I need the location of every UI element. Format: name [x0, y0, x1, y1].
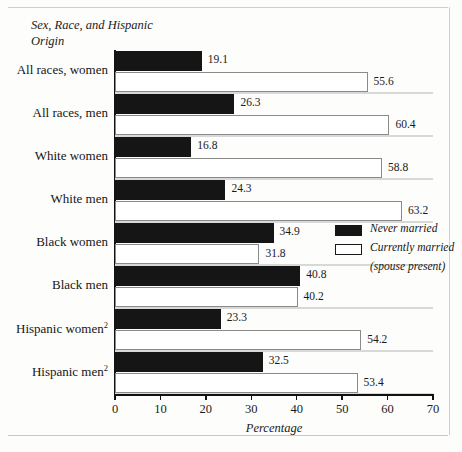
figure-panel: Sex, Race, and Hispanic Origin All races… — [0, 0, 462, 452]
category-label-column: All races, womenAll races, menWhite wome… — [0, 0, 113, 394]
x-tick-20 — [205, 394, 206, 400]
bar-never-married-2 — [115, 137, 191, 157]
bar-currently-married-5 — [115, 287, 298, 307]
x-tick-label-60: 60 — [381, 402, 394, 417]
bar-value-currently-married-4: 31.8 — [265, 247, 285, 259]
bar-value-never-married-3: 24.3 — [231, 182, 251, 194]
category-label-text-6: Hispanic women — [16, 321, 104, 336]
bar-value-currently-married-5: 40.2 — [304, 290, 324, 302]
category-label-text-2: White women — [35, 148, 108, 163]
category-label-text-7: Hispanic men — [32, 364, 104, 379]
bar-value-never-married-2: 16.8 — [197, 139, 217, 151]
bar-never-married-7 — [115, 352, 263, 372]
black-swatch-icon — [335, 225, 362, 236]
bar-currently-married-3 — [115, 201, 402, 221]
bar-currently-married-1 — [115, 115, 389, 135]
category-footnote-7: 2 — [104, 363, 108, 373]
category-label-text-0: All races, women — [17, 62, 108, 77]
category-label-text-3: White men — [51, 191, 108, 206]
category-label-2: White women — [35, 148, 108, 164]
bar-value-never-married-7: 32.5 — [269, 354, 289, 366]
bar-currently-married-2 — [115, 158, 382, 178]
white-swatch-icon — [335, 244, 362, 255]
bar-never-married-1 — [115, 94, 234, 114]
bar-value-never-married-0: 19.1 — [208, 53, 228, 65]
legend-item-currently-married: Currently married — [335, 241, 460, 260]
x-tick-label-0: 0 — [112, 402, 118, 417]
legend-item-never-married: Never married — [335, 222, 460, 241]
page-border-right — [449, 7, 450, 435]
x-tick-0 — [114, 394, 115, 400]
bar-value-never-married-1: 26.3 — [240, 96, 260, 108]
x-tick-30 — [251, 394, 252, 400]
category-label-0: All races, women — [17, 62, 108, 78]
bar-never-married-0 — [115, 51, 202, 71]
legend-item-currently-married-sub: (spouse present) — [335, 260, 460, 279]
bar-never-married-4 — [115, 223, 274, 243]
category-label-7: Hispanic men2 — [32, 363, 108, 380]
category-label-6: Hispanic women2 — [16, 320, 108, 337]
x-tick-label-20: 20 — [200, 402, 213, 417]
bar-value-currently-married-2: 58.8 — [388, 161, 408, 173]
legend-label-currently-married: Currently married — [370, 241, 454, 253]
x-tick-label-70: 70 — [427, 402, 440, 417]
chart-legend: Never married Currently married (spouse … — [335, 222, 460, 279]
x-tick-50 — [341, 394, 342, 400]
bar-currently-married-4 — [115, 244, 259, 264]
category-label-3: White men — [51, 191, 108, 207]
bar-value-currently-married-3: 63.2 — [408, 204, 428, 216]
x-tick-60 — [387, 394, 388, 400]
group-separator-7 — [115, 393, 433, 394]
x-tick-label-30: 30 — [245, 402, 258, 417]
bar-never-married-6 — [115, 309, 221, 329]
category-label-text-4: Black women — [36, 234, 108, 249]
legend-label-spouse-present: (spouse present) — [370, 260, 445, 272]
x-tick-label-50: 50 — [336, 402, 349, 417]
bar-value-currently-married-7: 53.4 — [364, 376, 384, 388]
bar-value-never-married-4: 34.9 — [280, 225, 300, 237]
category-label-1: All races, men — [33, 105, 108, 121]
bar-value-currently-married-1: 60.4 — [395, 118, 415, 130]
bar-value-never-married-6: 23.3 — [227, 311, 247, 323]
x-tick-10 — [160, 394, 161, 400]
bar-currently-married-7 — [115, 373, 358, 393]
category-label-text-1: All races, men — [33, 105, 108, 120]
x-tick-label-40: 40 — [290, 402, 303, 417]
x-tick-label-10: 10 — [154, 402, 167, 417]
bar-never-married-3 — [115, 180, 225, 200]
bar-never-married-5 — [115, 266, 300, 286]
page-border-bottom — [8, 435, 448, 436]
bar-value-never-married-5: 40.8 — [306, 268, 326, 280]
x-axis-label: Percentage — [246, 421, 302, 436]
category-label-4: Black women — [36, 234, 108, 250]
category-label-5: Black men — [52, 277, 108, 293]
bar-currently-married-6 — [115, 330, 361, 350]
category-label-text-5: Black men — [52, 277, 108, 292]
x-tick-40 — [296, 394, 297, 400]
category-footnote-6: 2 — [104, 320, 108, 330]
bar-value-currently-married-6: 54.2 — [367, 333, 387, 345]
bar-currently-married-0 — [115, 72, 368, 92]
legend-label-never-married: Never married — [370, 222, 437, 234]
bar-value-currently-married-0: 55.6 — [374, 75, 394, 87]
x-tick-70 — [432, 394, 433, 400]
